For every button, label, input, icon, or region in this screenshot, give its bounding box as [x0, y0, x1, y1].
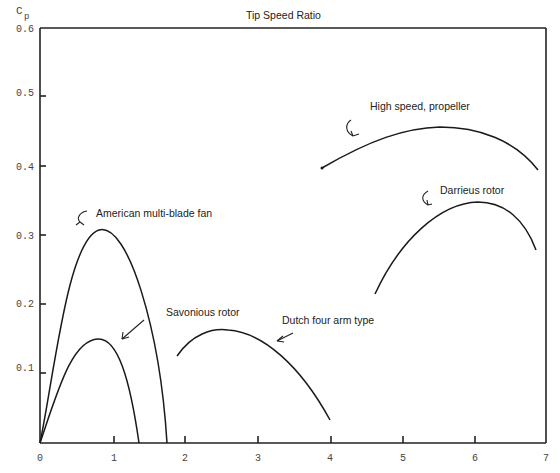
svg-text:1: 1: [111, 453, 117, 464]
curly-arrow-icon: [76, 211, 87, 225]
y-axis-label: C: [16, 5, 23, 17]
annotation-savonius: Savonious rotor: [122, 306, 240, 339]
svg-text:0: 0: [37, 453, 43, 464]
svg-text:Darrieus rotor: Darrieus rotor: [440, 184, 505, 196]
curly-arrow-icon: [347, 120, 359, 136]
svg-text:5: 5: [400, 453, 406, 464]
y-axis-tick-labels: 0.6 0.5 0.4 0.3 0.2 0.1: [16, 24, 34, 374]
svg-text:4: 4: [327, 453, 333, 464]
cp-vs-tip-speed-ratio-chart: Tip Speed Ratio C p 0.6 0.5 0.4 0.3 0.2 …: [0, 0, 560, 473]
svg-text:7: 7: [543, 453, 549, 464]
chart-title: Tip Speed Ratio: [246, 9, 321, 21]
curve-high-speed-propeller: [322, 127, 538, 170]
svg-text:Savonious rotor: Savonious rotor: [166, 306, 240, 318]
svg-text:0.2: 0.2: [16, 299, 34, 310]
annotation-darrieus: Darrieus rotor: [423, 184, 505, 205]
svg-text:0.3: 0.3: [16, 231, 34, 242]
propeller-start-dot: [321, 167, 324, 170]
x-axis-tick-labels: 0 1 2 3 4 5 6 7: [37, 453, 549, 464]
svg-text:American multi-blade fan: American multi-blade fan: [96, 207, 212, 219]
svg-text:Dutch four arm type: Dutch four arm type: [282, 314, 374, 326]
arrow-icon: [277, 333, 293, 341]
curly-arrow-icon: [423, 191, 432, 205]
svg-text:3: 3: [255, 453, 261, 464]
svg-text:0.6: 0.6: [16, 24, 34, 35]
svg-text:6: 6: [472, 453, 478, 464]
plot-frame: [40, 28, 546, 443]
svg-text:0.4: 0.4: [16, 162, 34, 173]
curve-dutch-four-arm: [177, 330, 330, 420]
annotation-american: American multi-blade fan: [76, 207, 212, 225]
arrow-icon: [122, 320, 144, 339]
svg-text:2: 2: [182, 453, 188, 464]
svg-text:0.1: 0.1: [16, 363, 34, 374]
curve-darrieus-rotor: [375, 202, 536, 294]
annotation-dutch: Dutch four arm type: [277, 314, 374, 342]
curve-savonius-rotor: [40, 339, 139, 443]
svg-text:High speed, propeller: High speed, propeller: [370, 100, 470, 112]
curve-american-multi-blade-fan: [40, 230, 167, 443]
y-axis-ticks: [40, 96, 46, 373]
x-axis-ticks: [114, 436, 475, 443]
svg-text:0.5: 0.5: [16, 88, 34, 99]
y-axis-label-subscript: p: [24, 12, 29, 22]
